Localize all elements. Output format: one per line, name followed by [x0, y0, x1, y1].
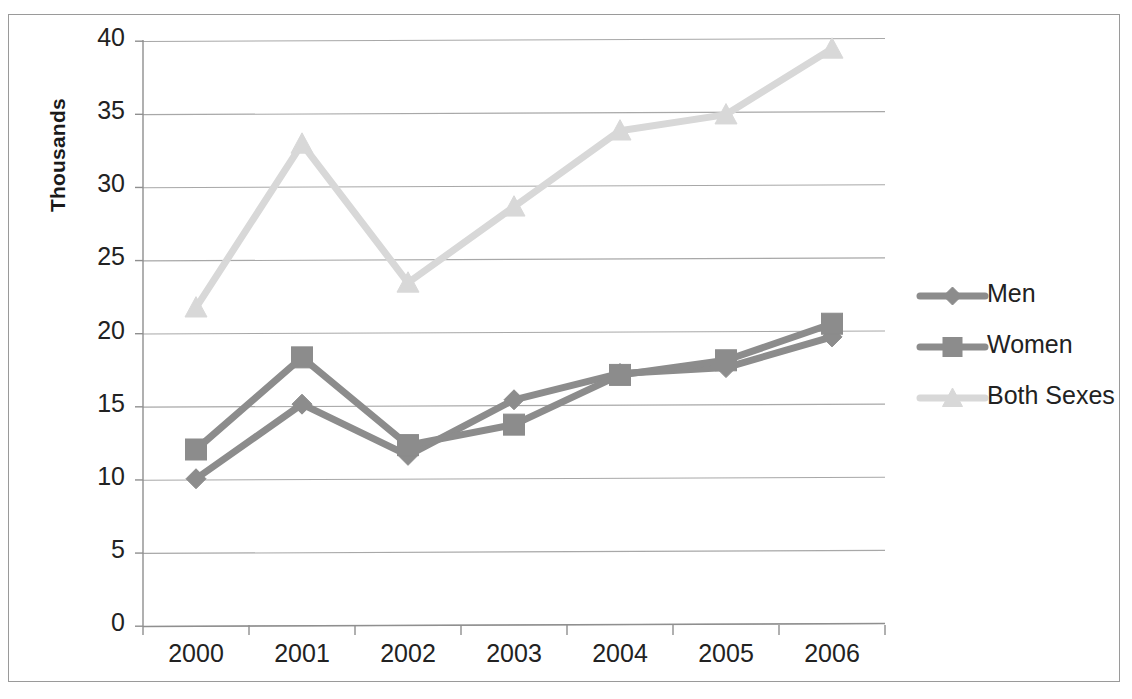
chart-figure: Thousands 0510152025303540 2000200120022…: [0, 0, 1132, 699]
marker-triangle: [821, 38, 843, 58]
x-tick-label: 2000: [141, 639, 251, 668]
x-axis-line: [143, 624, 885, 627]
x-tick-label: 2001: [247, 639, 357, 668]
y-tick-label: 20: [65, 316, 125, 345]
chart-plot: [0, 0, 1132, 699]
gridline: [143, 185, 885, 188]
gridline: [143, 258, 885, 261]
x-tick-label: 2004: [565, 639, 675, 668]
x-tick-label: 2005: [671, 639, 781, 668]
series-line: [196, 49, 832, 308]
gridline: [143, 477, 885, 480]
y-tick-label: 10: [65, 462, 125, 491]
legend-label: Women: [987, 330, 1073, 359]
y-tick-label: 5: [65, 535, 125, 564]
marker-square: [943, 338, 962, 357]
y-tick-label: 35: [65, 96, 125, 125]
y-tick-label: 30: [65, 169, 125, 198]
y-tick-label: 25: [65, 242, 125, 271]
gridline: [143, 112, 885, 115]
y-tick-label: 40: [65, 23, 125, 52]
legend-label: Men: [987, 279, 1036, 308]
y-tick-label: 15: [65, 389, 125, 418]
gridline: [143, 331, 885, 334]
marker-triangle: [291, 133, 313, 153]
marker-square: [398, 435, 419, 456]
legend-item-both-sexes[interactable]: [920, 388, 985, 407]
marker-square: [716, 350, 737, 371]
gridline: [143, 550, 885, 553]
legend-markers: [920, 287, 985, 407]
legend-item-women[interactable]: [920, 338, 985, 357]
x-tick-label: 2006: [777, 639, 887, 668]
marker-square: [186, 439, 207, 460]
legend-label: Both Sexes: [987, 381, 1115, 410]
legend-item-men[interactable]: [920, 287, 985, 305]
y-tick-label: 0: [65, 608, 125, 637]
x-tick-label: 2002: [353, 639, 463, 668]
series-women: [186, 313, 843, 460]
marker-square: [292, 347, 313, 368]
y-tick-marks: [135, 40, 143, 626]
x-tick-marks: [143, 624, 885, 636]
marker-diamond: [944, 287, 962, 305]
x-tick-label: 2003: [459, 639, 569, 668]
series-both-sexes: [185, 38, 843, 317]
marker-square: [610, 364, 631, 385]
marker-square: [822, 313, 843, 334]
gridline: [143, 39, 885, 42]
series-layer: [185, 38, 843, 489]
gridlines: [143, 39, 885, 627]
marker-square: [504, 414, 525, 435]
